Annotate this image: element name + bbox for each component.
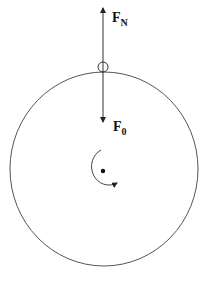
rotation-arrow-icon bbox=[92, 150, 117, 185]
diagram-canvas: FN F0 bbox=[0, 0, 209, 281]
wheel-circle bbox=[10, 72, 198, 266]
applied-force-label: F0 bbox=[113, 119, 127, 137]
normal-force-label: FN bbox=[112, 10, 129, 28]
center-point bbox=[101, 169, 105, 173]
